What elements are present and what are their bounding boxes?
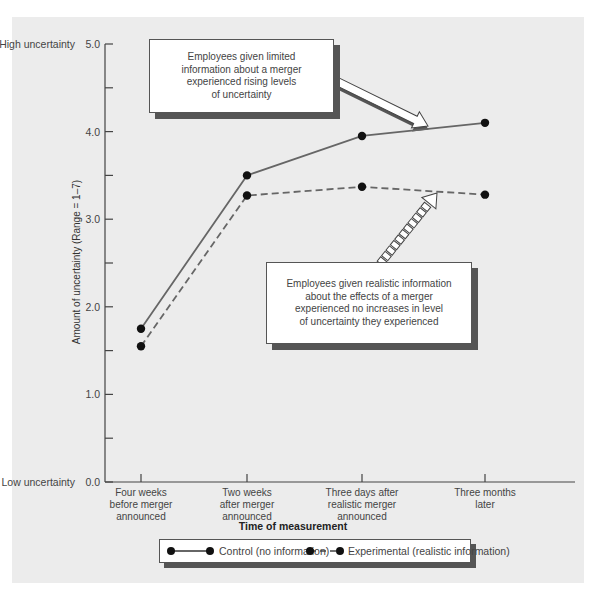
legend-label-experimental: Experimental (realistic information) — [348, 545, 510, 557]
data-point-marker — [481, 119, 489, 127]
y-low-label: Low uncertainty — [1, 476, 75, 488]
callout-text-line: information about a merger — [181, 64, 301, 77]
x-axis: Four weeksbefore mergerannouncedTwo week… — [105, 474, 575, 522]
callout-text-line: Employees given realistic information — [286, 278, 451, 291]
callout-text-line: about the effects of a merger — [286, 291, 451, 304]
data-point-marker — [137, 325, 145, 333]
y-tick-label: 3.0 — [85, 213, 100, 225]
chart-legend: Control (no information) Experimental (r… — [159, 539, 471, 563]
y-high-label: High uncertainty — [0, 38, 76, 50]
y-tick-label: 4.0 — [85, 126, 100, 138]
x-category-label: Two weeksafter mergerannounced — [220, 487, 275, 522]
control-arrow-icon — [325, 70, 434, 138]
control-annotation-callout: Employees given limitedinformation about… — [149, 39, 334, 113]
y-axis: 0.01.02.03.04.05.0High uncertaintyLow un… — [0, 38, 113, 488]
x-category-label: Three monthslater — [454, 487, 516, 510]
x-axis-title: Time of measurement — [239, 520, 348, 532]
y-tick-label: 5.0 — [85, 38, 100, 50]
dashed-line-marker-icon — [305, 545, 345, 557]
callout-text-line: of uncertainty they experienced — [286, 316, 451, 329]
data-point-marker — [481, 190, 489, 198]
experimental-arrow-icon — [373, 187, 444, 269]
callout-text-line: Employees given limited — [181, 51, 301, 64]
callout-text-line: of uncertainty — [181, 89, 301, 102]
experimental-annotation-callout: Employees given realistic informationabo… — [266, 262, 472, 344]
data-point-marker — [243, 191, 251, 199]
solid-line-marker-icon — [166, 545, 216, 557]
y-tick-label: 2.0 — [85, 301, 100, 313]
callout-arrows — [325, 70, 444, 269]
legend-item-experimental: Experimental (realistic information) — [305, 540, 510, 562]
data-point-marker — [243, 171, 251, 179]
data-point-marker — [358, 132, 366, 140]
x-category-label: Four weeksbefore mergerannounced — [110, 487, 173, 522]
data-point-marker — [358, 183, 366, 191]
callout-text-line: experienced rising levels — [181, 76, 301, 89]
x-category-label: Three days afterrealistic mergerannounce… — [326, 487, 399, 522]
y-tick-label: 0.0 — [85, 476, 100, 488]
y-axis-title: Amount of uncertainty (Range = 1–7) — [71, 180, 82, 344]
y-tick-label: 1.0 — [85, 388, 100, 400]
data-point-marker — [137, 342, 145, 350]
callout-text-line: experienced no increases in level — [286, 303, 451, 316]
